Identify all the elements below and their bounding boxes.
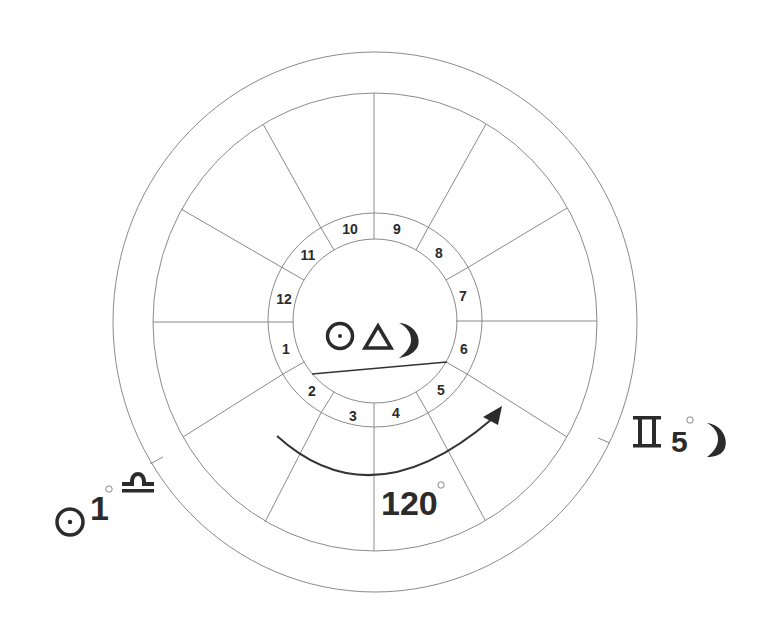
ring-divider: [416, 392, 428, 413]
sun-icon: [328, 324, 353, 349]
house-ring: [268, 213, 482, 428]
left-degree-value: 1: [90, 489, 109, 527]
spoke-30: [467, 208, 567, 268]
right-position-label: 5: [633, 416, 726, 458]
gemini-icon: [633, 416, 661, 448]
ring-divider: [283, 362, 304, 374]
trine-icon: [365, 326, 391, 348]
ring-divider: [416, 228, 428, 250]
ring-divider: [283, 268, 304, 280]
spoke-150: [181, 209, 283, 268]
arc-label: 120: [381, 482, 444, 522]
horizon-chord: [312, 362, 447, 374]
spoke-60: [428, 124, 486, 228]
house-number-4: 4: [392, 405, 400, 421]
house-ring-inner: [293, 239, 457, 403]
degree-symbol: [438, 482, 444, 488]
house-number-8: 8: [435, 245, 443, 261]
spoke-210: [183, 374, 283, 437]
house-numbers: 1 2 3 4 5 6 7 8 9 10 11 12: [276, 221, 468, 424]
spoke-240: [265, 413, 321, 522]
ring-divider: [446, 362, 467, 374]
house-number-2: 2: [308, 383, 316, 399]
arc-degree-value: 120: [381, 484, 438, 522]
left-position-label: 1: [57, 472, 154, 535]
house-number-12: 12: [276, 291, 292, 307]
degree-symbol: [687, 417, 693, 423]
center-aspect: [328, 323, 419, 358]
right-degree-value: 5: [671, 425, 688, 458]
ring-divider: [446, 268, 467, 280]
arc-arrow: [277, 406, 502, 475]
ring-divider: [321, 228, 334, 250]
moon-icon: [707, 423, 726, 457]
house-number-3: 3: [349, 408, 357, 424]
sun-icon: [57, 509, 83, 535]
house-spokes: [153, 93, 597, 551]
house-number-1: 1: [282, 341, 290, 357]
house-number-5: 5: [437, 382, 445, 398]
house-ring-outer: [268, 213, 482, 427]
libra-icon: [122, 472, 154, 493]
arrow-head-icon: [483, 406, 502, 425]
moon-icon: [399, 323, 419, 358]
house-number-10: 10: [342, 221, 358, 237]
house-number-6: 6: [460, 341, 468, 357]
ring-divider: [321, 392, 334, 413]
astrology-chart: 1 2 3 4 5 6 7 8 9 10 11 12 120: [0, 0, 768, 629]
spoke-120: [263, 124, 321, 228]
right-position-tick: [598, 438, 610, 443]
house-number-9: 9: [393, 221, 401, 237]
house-number-7: 7: [459, 288, 467, 304]
left-position-tick: [150, 457, 163, 464]
house-number-11: 11: [301, 247, 316, 263]
